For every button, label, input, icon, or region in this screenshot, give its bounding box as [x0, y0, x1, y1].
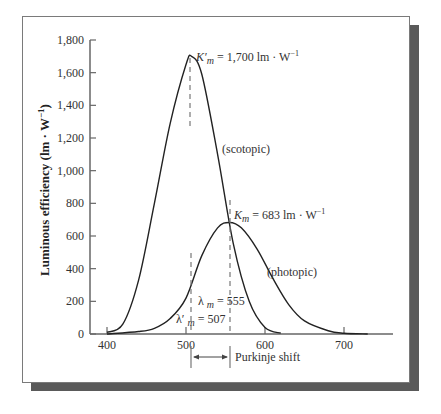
y-tick-label: 1,600 [57, 66, 84, 80]
photopic-label: (photopic) [267, 265, 317, 279]
y-axis-label: Luminous efficiency (lm · W−1) [36, 104, 52, 276]
luminous-efficiency-chart: 02004006008001,0001,2001,4001,6001,800 4… [0, 0, 441, 414]
y-tick-label: 1,200 [57, 131, 84, 145]
scotopic-curve [107, 55, 281, 333]
lambda-photopic-label: λm = 555 [198, 294, 245, 310]
photopic-peak-label: Km = 683 lm · W−1 [233, 207, 325, 224]
y-tick-label: 200 [66, 294, 84, 308]
arrow-left-head-icon [193, 355, 199, 360]
lambda-scotopic-label: λ′m = 507 [176, 312, 225, 328]
x-tick-label: 400 [98, 338, 116, 352]
x-tick-label: 700 [335, 338, 353, 352]
x-tick-label: 500 [177, 338, 195, 352]
y-tick-label: 0 [78, 327, 84, 341]
y-tick-label: 1,400 [57, 98, 84, 112]
y-tick-label: 1,800 [57, 33, 84, 47]
y-tick-label: 800 [66, 196, 84, 210]
scotopic-peak-label: K′m = 1,700 lm · W−1 [195, 49, 299, 66]
scotopic-label: (scotopic) [222, 142, 270, 156]
y-tick-label: 1,000 [57, 164, 84, 178]
arrow-right-head-icon [222, 355, 228, 360]
purkinje-shift-label: Purkinje shift [235, 350, 301, 364]
y-tick-label: 400 [66, 262, 84, 276]
y-tick-label: 600 [66, 229, 84, 243]
photopic-curve [107, 222, 368, 334]
x-ticks: 400500600700 [98, 327, 353, 352]
